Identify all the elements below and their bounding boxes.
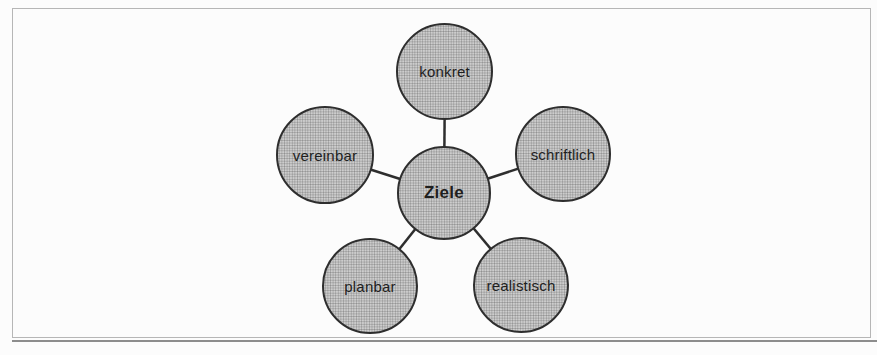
node-schriftlich-label: schriftlich [531, 146, 596, 163]
node-planbar-label: planbar [344, 278, 395, 295]
page-bottom-rule [12, 340, 877, 342]
node-vereinbar-label: vereinbar [293, 147, 357, 164]
node-vereinbar: vereinbar [276, 106, 374, 204]
node-schriftlich: schriftlich [515, 106, 611, 202]
node-ziele-center: Ziele [397, 146, 491, 240]
node-ziele-label: Ziele [424, 183, 464, 203]
node-konkret-label: konkret [419, 63, 470, 80]
node-realistisch-label: realistisch [487, 277, 556, 294]
node-planbar: planbar [322, 238, 418, 334]
node-realistisch: realistisch [473, 237, 569, 333]
node-konkret: konkret [396, 23, 493, 120]
scanned-figure-page: konkret schriftlich vereinbar planbar re… [0, 0, 877, 355]
